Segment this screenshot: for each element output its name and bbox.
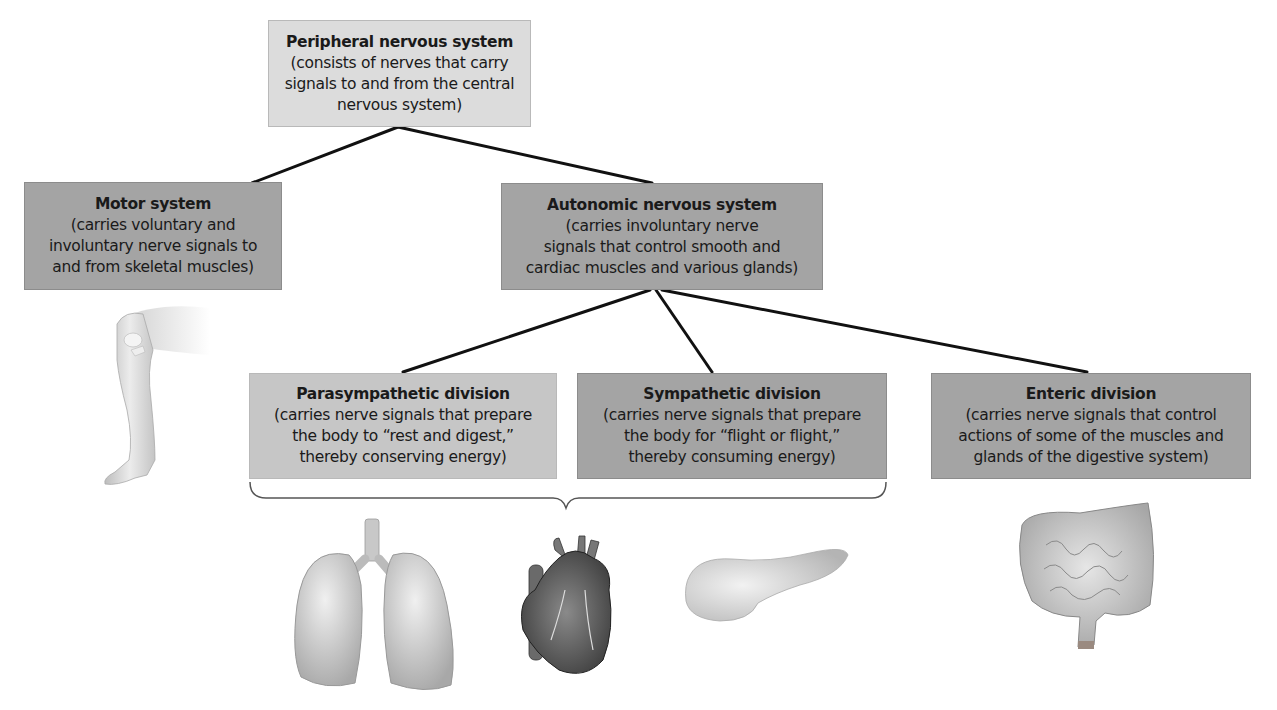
- box-motor-system: Motor system (carries voluntary and invo…: [24, 182, 282, 290]
- leg-icon: [95, 300, 215, 490]
- box-parasympathetic-division: Parasympathetic division (carries nerve …: [249, 373, 557, 479]
- box-title: Motor system: [95, 194, 211, 215]
- box-desc-line: and from skeletal muscles): [52, 257, 253, 278]
- box-desc-line: signals to and from the central: [285, 74, 515, 95]
- box-desc-line: the body to “rest and digest,”: [292, 426, 514, 447]
- box-sympathetic-division: Sympathetic division (carries nerve sign…: [577, 373, 887, 479]
- connector-root-autonomic: [398, 127, 652, 183]
- box-desc-line: actions of some of the muscles and: [958, 426, 1223, 447]
- box-desc-line: (consists of nerves that carry: [291, 53, 509, 74]
- lungs-icon: [285, 515, 465, 695]
- box-desc-line: (carries nerve signals that prepare: [603, 405, 861, 426]
- intestines-icon: [1010, 495, 1160, 660]
- pancreas-icon: [680, 545, 855, 625]
- box-desc-line: involuntary nerve signals to: [49, 236, 257, 257]
- box-title: Autonomic nervous system: [547, 195, 777, 216]
- connector-autonomic-enteric: [662, 290, 1087, 372]
- box-title: Parasympathetic division: [296, 384, 510, 405]
- heart-icon: [515, 530, 625, 680]
- box-enteric-division: Enteric division (carries nerve signals …: [931, 373, 1251, 479]
- box-desc-line: glands of the digestive system): [974, 447, 1209, 468]
- box-desc-line: cardiac muscles and various glands): [526, 258, 798, 279]
- box-autonomic-nervous-system: Autonomic nervous system (carries involu…: [501, 183, 823, 290]
- box-desc-line: nervous system): [337, 95, 462, 116]
- box-desc-line: signals that control smooth and: [544, 237, 781, 258]
- box-title: Sympathetic division: [643, 384, 820, 405]
- box-title: Enteric division: [1026, 384, 1156, 405]
- connector-autonomic-parasympathetic: [403, 290, 650, 372]
- box-desc-line: (carries nerve signals that prepare: [274, 405, 532, 426]
- box-desc-line: thereby consuming energy): [628, 447, 835, 468]
- connector-autonomic-sympathetic: [656, 290, 712, 372]
- box-desc-line: (carries voluntary and: [71, 215, 236, 236]
- box-desc-line: the body for “flight or flight,”: [624, 426, 840, 447]
- box-desc-line: (carries involuntary nerve: [566, 216, 759, 237]
- bracket: [250, 482, 886, 508]
- box-desc-line: (carries nerve signals that control: [965, 405, 1216, 426]
- box-title: Peripheral nervous system: [286, 32, 513, 53]
- connector-root-motor: [252, 127, 398, 183]
- box-desc-line: thereby conserving energy): [299, 447, 506, 468]
- box-peripheral-nervous-system: Peripheral nervous system (consists of n…: [268, 20, 531, 127]
